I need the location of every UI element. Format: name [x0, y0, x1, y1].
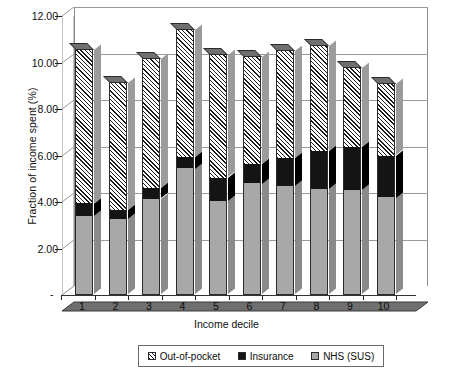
bar-segment-insurance: [343, 147, 361, 190]
y-axis-zero-label: -: [50, 288, 54, 300]
bar-segment-out-of-pocket: [209, 54, 227, 177]
bar-segment-side-face: [362, 142, 369, 190]
bar-segment-out-of-pocket: [276, 50, 294, 158]
legend-label-insurance: Insurance: [250, 351, 294, 362]
gray-swatch-icon: [311, 352, 319, 360]
x-axis-tick-label: 5: [213, 300, 219, 312]
bar-segment-insurance: [310, 151, 328, 189]
chart-figure: Fraction of income spent (%) - 2.004.006…: [0, 0, 453, 380]
bar-segment-side-face: [396, 150, 403, 197]
bar-segment-out-of-pocket: [176, 29, 194, 157]
bar-segment-side-face: [295, 45, 302, 158]
bar-segment-side-face: [329, 184, 336, 294]
bar-segment-out-of-pocket: [377, 83, 395, 155]
bar-segment-insurance: [377, 156, 395, 198]
chart-legend: Out-of-pocket Insurance NHS (SUS): [138, 345, 384, 367]
bar-segment-out-of-pocket: [343, 67, 361, 147]
bar-segment-insurance: [109, 210, 127, 219]
black-swatch-icon: [238, 352, 246, 360]
x-axis-tick-label: 2: [113, 300, 119, 312]
x-axis-tick-label: 4: [180, 300, 186, 312]
bar-segment-out-of-pocket: [310, 45, 328, 151]
x-axis-tick-label: 3: [146, 300, 152, 312]
legend-label-nhs: NHS (SUS): [323, 351, 374, 362]
bar-segment-nhs: [243, 183, 261, 295]
bar-segment-side-face: [228, 172, 235, 201]
y-axis-tick-mark: [55, 109, 62, 110]
bar-segment-insurance: [75, 203, 93, 216]
bar-segment-side-face: [396, 192, 403, 294]
gridline: [74, 7, 428, 8]
bar-segment-side-face: [228, 50, 235, 178]
y-axis-tick-mark: [55, 156, 62, 157]
bar-segment-side-face: [161, 53, 168, 188]
bar-segment-insurance: [209, 178, 227, 201]
bar-segment-out-of-pocket: [142, 58, 160, 188]
bar-segment-side-face: [329, 145, 336, 189]
bar-segment-nhs: [310, 189, 328, 295]
bar-segment-nhs: [377, 197, 395, 295]
hatch-swatch-icon: [148, 352, 156, 360]
legend-label-out-of-pocket: Out-of-pocket: [160, 351, 221, 362]
bar-segment-side-face: [128, 78, 135, 210]
bar-segment-side-face: [362, 185, 369, 294]
bar-segment-out-of-pocket: [75, 49, 93, 204]
bar-segment-side-face: [396, 79, 403, 156]
bar-segment-side-face: [195, 24, 202, 156]
y-axis-title: Fraction of income spent (%): [26, 46, 38, 266]
bar-segment-out-of-pocket: [109, 82, 127, 210]
bar-segment-side-face: [161, 193, 168, 294]
bar-segment-side-face: [94, 44, 101, 203]
bar-segment-nhs: [75, 216, 93, 295]
y-axis-tick-mark: [55, 16, 62, 17]
bar-segment-side-face: [228, 195, 235, 294]
legend-item-out-of-pocket[interactable]: Out-of-pocket: [148, 351, 221, 362]
x-axis-tick-label: 8: [314, 300, 320, 312]
legend-item-nhs[interactable]: NHS (SUS): [311, 351, 374, 362]
x-axis-tick-label: 6: [247, 300, 253, 312]
x-axis-line: [62, 295, 416, 296]
bar-segment-side-face: [128, 214, 135, 294]
bar-segment-nhs: [176, 168, 194, 295]
y-axis-tick-mark: [55, 63, 62, 64]
y-axis-tick-mark: [55, 202, 62, 203]
plot-side-wall: [62, 16, 74, 295]
bar-segment-side-face: [295, 152, 302, 185]
bar-segment-insurance: [142, 188, 160, 198]
y-axis-tick-mark: [55, 249, 62, 250]
bar-segment-insurance: [243, 164, 261, 184]
x-axis-tick-label: 7: [280, 300, 286, 312]
bar-segment-side-face: [262, 178, 269, 294]
x-axis-tick-label: 1: [79, 300, 85, 312]
x-axis-tick-label: 9: [347, 300, 353, 312]
bar-segment-side-face: [329, 41, 336, 151]
bar-segment-nhs: [109, 219, 127, 295]
bar-segment-nhs: [209, 201, 227, 295]
bar-segment-insurance: [176, 157, 194, 169]
bar-segment-nhs: [142, 199, 160, 295]
bar-segment-insurance: [276, 158, 294, 186]
legend-item-insurance[interactable]: Insurance: [238, 351, 294, 362]
bar-segment-side-face: [94, 210, 101, 294]
bar-segment-nhs: [276, 186, 294, 295]
bar-segment-side-face: [262, 51, 269, 164]
x-axis-tick-label: 10: [378, 300, 390, 312]
bar-segment-nhs: [343, 190, 361, 295]
bar-segment-out-of-pocket: [243, 56, 261, 164]
x-axis-title: Income decile: [0, 318, 453, 330]
bar-segment-side-face: [295, 180, 302, 294]
bar-segment-side-face: [195, 163, 202, 294]
bar-segment-side-face: [362, 63, 369, 148]
